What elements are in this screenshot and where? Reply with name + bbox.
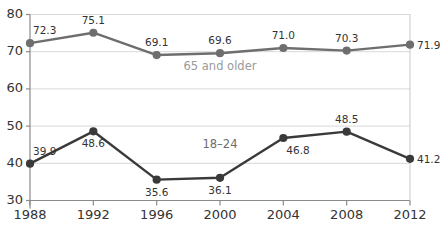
data-point-1-2008 [343, 46, 351, 54]
data-point-1-1992 [89, 29, 97, 37]
series-label-2: 18–24 [202, 137, 237, 151]
data-label-1-2008: 70.3 [335, 32, 358, 44]
data-point-2-2012 [406, 155, 414, 163]
data-point-2-1996 [153, 176, 161, 184]
data-label-2-2008: 48.5 [335, 113, 358, 125]
chart-canvas: 3040506070801988199219962000200420082012… [0, 0, 441, 230]
y-tick-label-80: 80 [6, 6, 23, 21]
series-label-1: 65 and older [184, 59, 257, 73]
data-point-2-1992 [89, 127, 97, 135]
data-point-1-1988 [26, 39, 34, 47]
data-label-1-2000: 69.6 [208, 34, 232, 46]
data-label-1-1992: 75.1 [82, 14, 105, 26]
y-tick-label-60: 60 [6, 80, 23, 95]
y-tick-label-40: 40 [6, 155, 23, 170]
data-point-2-2000 [216, 174, 224, 182]
x-tick-label-2000: 2000 [203, 207, 236, 222]
x-tick-label-1992: 1992 [77, 207, 110, 222]
data-label-1-2012: 71.9 [417, 39, 440, 51]
x-tick-label-2008: 2008 [330, 207, 363, 222]
x-tick-label-2004: 2004 [267, 207, 300, 222]
data-label-2-2004: 46.8 [286, 144, 309, 156]
data-label-1-1996: 69.1 [145, 36, 168, 48]
data-point-1-2000 [216, 49, 224, 57]
x-tick-label-2012: 2012 [393, 207, 426, 222]
y-tick-label-30: 30 [6, 192, 23, 207]
y-tick-label-50: 50 [6, 118, 23, 133]
data-point-2-1988 [26, 160, 34, 168]
data-point-1-1996 [153, 51, 161, 59]
data-label-2-1992: 48.6 [82, 137, 106, 149]
line-chart: 3040506070801988199219962000200420082012… [0, 0, 441, 230]
x-tick-label-1988: 1988 [13, 207, 46, 222]
data-point-2-2004 [279, 134, 287, 142]
data-label-2-1988: 39.9 [33, 145, 56, 157]
data-point-1-2004 [279, 44, 287, 52]
data-label-2-2012: 41.2 [417, 153, 440, 165]
data-label-2-1996: 35.6 [145, 186, 169, 198]
data-point-1-2012 [406, 41, 414, 49]
data-label-2-2000: 36.1 [208, 184, 231, 196]
y-tick-label-70: 70 [6, 43, 23, 58]
x-tick-label-1996: 1996 [140, 207, 173, 222]
data-point-2-2008 [343, 128, 351, 136]
data-label-1-2004: 71.0 [272, 29, 295, 41]
data-label-1-1988: 72.3 [33, 24, 56, 36]
